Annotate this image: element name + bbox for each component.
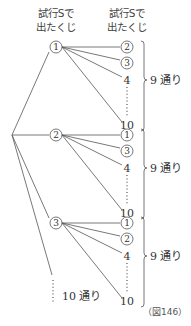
root-edge-1 <box>12 52 49 135</box>
root-edges <box>12 52 52 275</box>
branch-1: 1234109 通り <box>50 41 183 132</box>
header-first-line1: 試行Sで <box>38 7 75 19</box>
first-node-label: 3 <box>53 218 59 228</box>
second-node-label: 1 <box>124 218 130 228</box>
header-first-draw: 試行Sで 出たくじ <box>36 7 76 33</box>
second-node-label: 4 <box>124 74 131 87</box>
branch-edge <box>62 223 122 253</box>
second-node-label: 2 <box>124 234 130 244</box>
root-edge-remaining <box>12 135 52 275</box>
remaining-count-label: 10 通り <box>62 290 102 303</box>
figure-label: （図146） <box>143 307 187 317</box>
second-node-label: 4 <box>124 250 131 263</box>
second-node-label: 4 <box>124 162 131 175</box>
second-node-label: 1 <box>124 130 130 140</box>
branch-count-label: 9 通り <box>150 74 183 87</box>
second-node-label: 3 <box>124 58 130 68</box>
branch-count-label: 9 通り <box>150 162 183 175</box>
header-first-line2: 出たくじ <box>36 21 76 33</box>
branch-count-label: 9 通り <box>150 250 183 263</box>
second-node-label: 10 <box>120 295 134 308</box>
brace <box>141 41 147 131</box>
brace <box>141 217 147 307</box>
header-second-draw: 試行Sで 出たくじ <box>107 7 147 33</box>
tree-diagram: 試行Sで 出たくじ 試行Sで 出たくじ 1234109 通り2134109 通り… <box>0 0 191 326</box>
branches: 1234109 通り2134109 通り3124109 通り <box>50 41 183 308</box>
branch-2: 2134109 通り <box>50 129 183 220</box>
branch-edge <box>62 135 122 165</box>
header-second-line1: 試行Sで <box>109 7 146 19</box>
branch-edge <box>62 47 122 77</box>
first-node-label: 2 <box>53 130 59 140</box>
brace <box>141 129 147 219</box>
first-node-label: 1 <box>53 42 59 52</box>
second-node-label: 3 <box>124 146 130 156</box>
header-second-line2: 出たくじ <box>107 21 147 33</box>
second-node-label: 2 <box>124 42 130 52</box>
root-edge-3 <box>12 135 49 218</box>
